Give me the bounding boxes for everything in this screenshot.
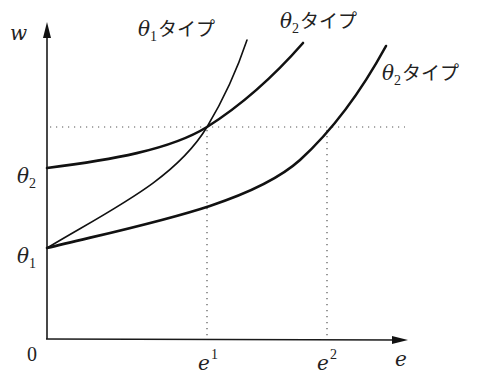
y-axis-label: w: [10, 21, 27, 45]
x-tick-e2-sup: 2: [330, 347, 337, 362]
x-tick-e1: e 1: [198, 347, 218, 375]
x-tick-e1-sup: 1: [211, 347, 218, 362]
label-theta2-lower-suffix: タイプ: [402, 62, 459, 84]
x-axis: [46, 339, 396, 340]
label-theta1-sub: 1: [150, 29, 157, 44]
y-tick-theta2-sub: 2: [29, 176, 36, 191]
curves: [47, 40, 386, 248]
x-axis-arrow-icon: [392, 336, 408, 344]
axes: [43, 22, 408, 344]
label-theta1-type: θ 1 タイプ: [138, 17, 215, 44]
label-theta2-upper-sub: 2: [292, 21, 299, 36]
label-theta2-upper-main: θ: [280, 9, 292, 33]
guide-lines: [50, 127, 405, 336]
signaling-diagram: w e 0 θ 2 θ 1 e 1 e 2 θ 1 タイプ θ 2 タイプ θ …: [0, 0, 487, 388]
label-theta1-suffix: タイプ: [158, 18, 215, 40]
x-tick-e2: e 2: [317, 347, 337, 375]
label-theta2-lower-sub: 2: [394, 73, 401, 88]
x-tick-e2-main: e: [317, 351, 329, 375]
theta1-curve: [47, 40, 247, 248]
x-axis-label: e: [395, 347, 407, 371]
label-theta1-main: θ: [138, 17, 150, 41]
y-tick-theta2-main: θ: [17, 164, 29, 188]
label-theta2-type-upper: θ 2 タイプ: [280, 9, 357, 36]
origin-label: 0: [27, 343, 37, 365]
y-tick-theta1: θ 1: [17, 244, 36, 271]
y-tick-theta1-sub: 1: [29, 256, 36, 271]
x-tick-e1-main: e: [198, 351, 210, 375]
y-tick-theta1-main: θ: [17, 244, 29, 268]
theta2-curve-upper: [47, 43, 303, 168]
label-theta2-type-lower: θ 2 タイプ: [382, 61, 459, 88]
y-axis-arrow-icon: [43, 22, 51, 38]
y-tick-theta2: θ 2: [17, 164, 36, 191]
label-theta2-lower-main: θ: [382, 61, 394, 85]
label-theta2-upper-suffix: タイプ: [300, 10, 357, 32]
